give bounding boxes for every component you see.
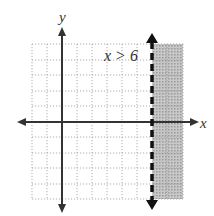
y-axis — [58, 27, 66, 213]
y-axis-label: y — [57, 9, 66, 25]
inequality-label: x > 6 — [103, 47, 138, 64]
inequality-graph: y x x > 6 — [0, 0, 214, 216]
x-axis-label: x — [199, 115, 207, 131]
